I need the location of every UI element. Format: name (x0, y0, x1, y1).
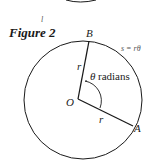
figure-title: Figure 2 (8, 25, 56, 40)
label-r-ob: r (77, 60, 82, 72)
label-b: B (86, 27, 93, 39)
label-o: O (66, 96, 74, 108)
stray-mark: l (41, 15, 44, 24)
label-r-oa: r (99, 113, 104, 125)
arc-length-formula: s = rθ (121, 44, 141, 53)
radius-oa (78, 99, 133, 126)
circle (24, 41, 142, 159)
previous-figure-arc (66, 0, 96, 2)
angle-unit-label: radians (98, 70, 130, 82)
figure-2-diagram: l Figure 2 B O A r r θ radians s = rθ (0, 0, 156, 166)
label-a: A (133, 122, 141, 134)
angle-symbol: θ (90, 70, 96, 82)
